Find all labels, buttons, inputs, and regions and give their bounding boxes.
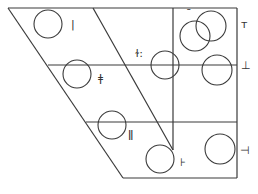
circle-node [205, 134, 235, 164]
glyph-label: | [71, 19, 75, 30]
circle-node [146, 145, 174, 173]
glyph-label: ⊦ [180, 157, 186, 168]
glyph-label: ᴛ [241, 19, 247, 30]
diagram-canvas [0, 0, 258, 194]
glyph-label: ⊣ [240, 145, 250, 156]
left-slant-edge [8, 8, 123, 178]
glyph-label: ⊥ [241, 60, 251, 71]
circle-node [63, 60, 91, 88]
circle-node [196, 11, 226, 41]
circle-node [34, 10, 62, 38]
circle-node [202, 55, 232, 85]
circle-node [98, 111, 126, 139]
glyph-label: ǁ [128, 129, 133, 140]
glyph-label: ˉ [186, 8, 192, 19]
glyph-label: ǂ [98, 73, 103, 84]
glyph-label: ɫ: [135, 48, 143, 59]
circle-node [180, 21, 210, 51]
